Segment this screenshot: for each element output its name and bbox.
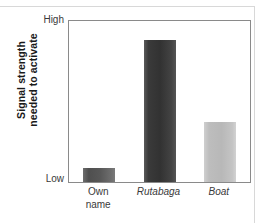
y-axis-tick-label-high: High	[24, 14, 64, 25]
y-axis-title-line-2: needed to activate	[27, 33, 40, 126]
x-axis-category-label: Own name	[68, 186, 128, 211]
bar	[204, 122, 236, 182]
bar	[144, 40, 176, 182]
x-axis-category-labels: Own nameRutabagaBoat	[68, 186, 251, 222]
x-axis-category-label: Rutabaga	[128, 186, 188, 199]
x-axis-category-label: Boat	[189, 186, 249, 199]
y-axis-title-line-1: Signal strength	[15, 41, 28, 119]
plot-area	[69, 21, 250, 182]
y-axis-title: Signal strength needed to activate	[7, 5, 47, 155]
plot-frame	[68, 20, 251, 183]
bar	[83, 168, 115, 182]
y-axis-tick-label-low: Low	[24, 173, 64, 184]
